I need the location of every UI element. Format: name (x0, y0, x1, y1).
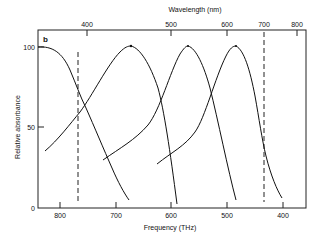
bottom-tick-label: 400 (277, 212, 289, 219)
top-tick-label: 500 (165, 21, 177, 28)
left-axis-title: Relative absorbance (14, 95, 21, 159)
curve-1 (38, 47, 129, 200)
curve-2 (45, 46, 177, 204)
peak-marker (130, 45, 132, 47)
top-tick-label: 400 (81, 21, 93, 28)
bottom-tick-label: 800 (54, 212, 66, 219)
left-tick-label: 50 (27, 124, 35, 131)
absorbance-chart: b Wavelength (nm) 400 500 600 700 800 80… (0, 0, 319, 243)
bottom-axis-tick-labels: 800 700 600 500 400 (54, 212, 289, 219)
bottom-tick-label: 500 (221, 212, 233, 219)
peak-marker (235, 45, 237, 47)
bottom-tick-label: 700 (110, 212, 122, 219)
peak-markers (130, 45, 237, 47)
top-tick-label: 800 (291, 21, 303, 28)
left-tick-label: 100 (23, 44, 35, 51)
left-tick-label: 0 (31, 205, 35, 212)
bottom-axis-ticks (60, 202, 283, 208)
peak-marker (187, 45, 189, 47)
left-axis-tick-labels: 100 50 0 (23, 44, 35, 212)
top-axis-title: Wavelength (nm) (168, 6, 221, 14)
panel-label: b (43, 35, 48, 44)
bottom-tick-label: 600 (165, 212, 177, 219)
top-axis-ticks (87, 30, 297, 36)
absorbance-curves (38, 46, 282, 204)
curve-3 (103, 46, 236, 200)
top-tick-label: 600 (221, 21, 233, 28)
curve-4 (157, 46, 282, 198)
left-axis-ticks (38, 47, 44, 127)
top-axis-tick-labels: 400 500 600 700 800 (81, 21, 303, 28)
top-tick-label: 700 (258, 21, 270, 28)
bottom-axis-title: Frequency (THz) (144, 224, 197, 232)
